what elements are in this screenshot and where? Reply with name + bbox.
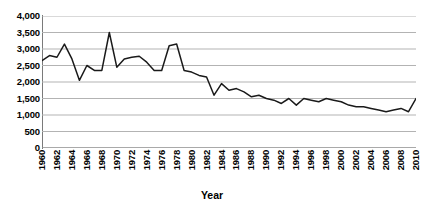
x-tick-label: 1962 (52, 150, 62, 170)
x-tick-label: 1964 (67, 150, 77, 170)
chart-svg (42, 16, 416, 148)
x-tick-label: 2002 (351, 150, 361, 170)
x-tick-label: 1988 (247, 150, 257, 170)
data-series-line (42, 33, 416, 112)
x-tick-label: 1990 (262, 150, 272, 170)
x-tick-label: 1980 (187, 150, 197, 170)
x-tick-label: 2008 (396, 150, 406, 170)
x-axis-title: Year (0, 189, 424, 201)
x-tick-label: 1968 (97, 150, 107, 170)
y-tick-label: 1,000 (0, 110, 40, 120)
x-tick-label: 1986 (232, 150, 242, 170)
x-tick-label: 2006 (381, 150, 391, 170)
x-tick-label: 1974 (142, 150, 152, 170)
x-tick-label: 1960 (37, 150, 47, 170)
x-tick-label: 2010 (411, 150, 421, 170)
x-tick-label: 2004 (366, 150, 376, 170)
x-tick-label: 1972 (127, 150, 137, 170)
x-tick-label: 2000 (336, 150, 346, 170)
x-tick-label: 1978 (172, 150, 182, 170)
y-tick-label: 3,000 (0, 44, 40, 54)
x-tick-label: 1970 (112, 150, 122, 170)
y-tick-label: 2,000 (0, 77, 40, 87)
plot-area (42, 16, 416, 148)
x-tick-label: 1998 (321, 150, 331, 170)
y-tick-label: 1,500 (0, 94, 40, 104)
y-tick-label: 500 (0, 127, 40, 137)
y-tick-label: 4,000 (0, 11, 40, 21)
x-axis-labels: 1960196219641966196819701972197419761978… (42, 150, 416, 190)
x-tick-label: 1996 (307, 150, 317, 170)
x-tick-label: 1976 (157, 150, 167, 170)
x-tick-label: 1984 (217, 150, 227, 170)
gridlines (42, 16, 416, 148)
x-tick-label: 1966 (82, 150, 92, 170)
y-tick-label: 2,500 (0, 61, 40, 71)
y-tick-label: 0 (0, 143, 40, 153)
x-tick-label: 1994 (292, 150, 302, 170)
x-tick-label: 1982 (202, 150, 212, 170)
y-tick-label: 3,500 (0, 28, 40, 38)
line-chart: 05001,0001,5002,0002,5003,0003,5004,000 … (0, 0, 424, 209)
x-tick-label: 1992 (277, 150, 287, 170)
y-axis-labels: 05001,0001,5002,0002,5003,0003,5004,000 (0, 0, 40, 209)
